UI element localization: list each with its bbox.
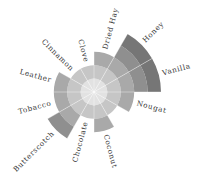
label-nougat: Nougat xyxy=(136,98,168,115)
label-clove: Clove xyxy=(76,38,91,63)
label-coconut: Coconut xyxy=(102,133,120,169)
label-leather: Leather xyxy=(19,67,53,84)
label-dried-hay: Dried Hay xyxy=(100,6,120,50)
flavor-wheel-chart: Dried HayHoneyVanillaNougatCoconutChocol… xyxy=(0,0,203,183)
label-honey: Honey xyxy=(141,19,166,44)
label-vanilla: Vanilla xyxy=(160,61,191,77)
label-cinnamon: Cinnamon xyxy=(40,37,76,73)
label-butterscotch: Butterscotch xyxy=(11,129,56,174)
label-tobacco: Tobacco xyxy=(17,98,52,116)
